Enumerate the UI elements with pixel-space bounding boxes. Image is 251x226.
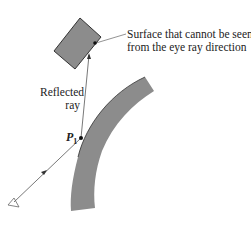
eye-ray-arrow [41, 170, 47, 175]
point-label: P1 [66, 131, 77, 148]
reflected-line-2: ray [40, 99, 80, 112]
reflected-line-1: Reflected [40, 86, 80, 99]
point-label-subscript: 1 [73, 137, 77, 146]
occluded-point [93, 41, 97, 45]
reflected-ray-label: Reflected ray [40, 86, 80, 112]
callout-leader [96, 34, 126, 43]
callout-line-1: Surface that cannot be seen [127, 28, 251, 41]
callout-label: Surface that cannot be seen from the eye… [127, 28, 251, 54]
ray-reflection-diagram: Surface that cannot be seen from the eye… [0, 0, 251, 226]
point-p1 [79, 136, 83, 140]
callout-line-2: from the eye ray direction [127, 41, 251, 54]
